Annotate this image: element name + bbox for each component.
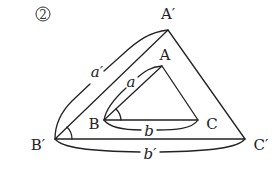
label-vertex-c: C xyxy=(206,117,217,132)
label-vertex-a: A xyxy=(160,48,171,63)
label-vertex-c-prime: C′ xyxy=(254,138,269,153)
label-side-a: a xyxy=(127,75,136,90)
label-vertex-a-prime: A′ xyxy=(161,7,175,22)
label-side-b: b xyxy=(144,124,154,139)
label-vertex-b: B xyxy=(88,117,99,132)
angle-arc-b-prime xyxy=(67,127,72,139)
figure-number: 2 xyxy=(39,7,47,21)
figure-number-badge: 2 xyxy=(36,7,51,22)
similar-triangles-diagram: 2 A′ A B′ B C C′ a′ a b b′ xyxy=(0,0,272,173)
label-side-a-prime: a′ xyxy=(91,65,103,80)
angle-arc-b xyxy=(116,109,121,120)
label-side-b-prime: b′ xyxy=(143,147,156,162)
label-vertex-b-prime: B′ xyxy=(31,138,45,153)
